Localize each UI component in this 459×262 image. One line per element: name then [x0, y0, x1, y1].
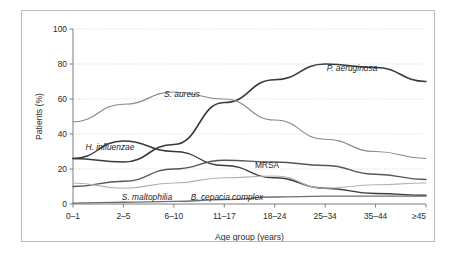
chart-plot-area: 0204060801000–12–56–1011–1718–2425–3435–… [22, 11, 434, 241]
x-tick-label: 2–5 [116, 211, 130, 221]
x-axis-title: Age group (years) [215, 232, 284, 241]
series-label: P. aeruginosa [327, 63, 378, 73]
x-tick-label: 0–1 [66, 211, 80, 221]
x-tick-label: 35–44 [364, 211, 388, 221]
series-label: MRSA [255, 160, 280, 170]
y-tick-label: 20 [58, 164, 68, 174]
y-axis-title: Patients (%) [34, 93, 44, 140]
x-tick-label: 11–17 [213, 211, 236, 221]
series-label: S. aureus [164, 89, 201, 99]
x-tick-label: 25–34 [313, 211, 337, 221]
series-label: S. maltophilia [122, 192, 173, 202]
y-tick-label: 80 [58, 59, 68, 69]
series-label: B. cepacia complex [191, 192, 264, 202]
y-tick-label: 60 [58, 94, 68, 104]
series-label: H. influenzae [86, 142, 135, 152]
y-tick-label: 100 [53, 24, 67, 34]
x-tick-label: 6–10 [165, 211, 184, 221]
x-tick-label: ≥45 [412, 211, 426, 221]
series-line [73, 160, 426, 186]
y-tick-label: 0 [62, 199, 67, 209]
series-line [73, 176, 426, 188]
x-tick-label: 18–24 [263, 211, 287, 221]
figure-frame: 0204060801000–12–56–1011–1718–2425–3435–… [21, 10, 435, 242]
line-chart: 0204060801000–12–56–1011–1718–2425–3435–… [22, 11, 434, 241]
y-tick-label: 40 [58, 129, 68, 139]
